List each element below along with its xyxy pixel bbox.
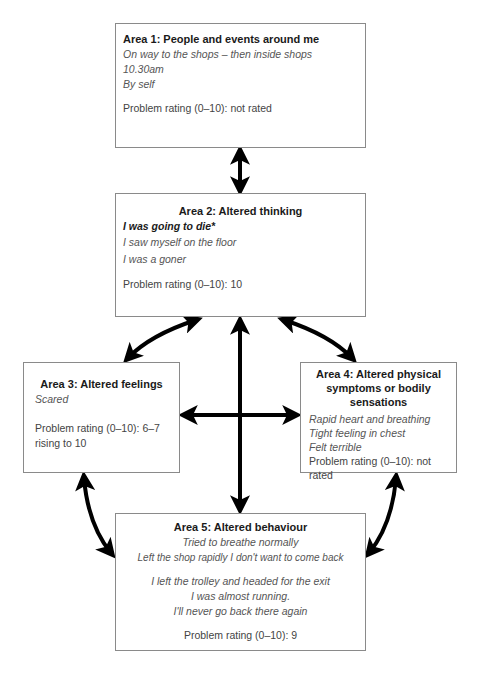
area5-line: I left the trolley and headed for the ex… bbox=[120, 574, 361, 589]
area4-line: Felt terrible bbox=[309, 440, 448, 454]
area4-box: Area 4: Altered physical symptoms or bod… bbox=[300, 362, 457, 473]
area3-line: Scared bbox=[35, 392, 168, 407]
area4-title-line: sensations bbox=[309, 395, 448, 409]
area4-line: Rapid heart and breathing bbox=[309, 412, 448, 426]
area3-rating-cont: rising to 10 bbox=[35, 436, 168, 451]
arrow-area4-area5 bbox=[369, 478, 396, 553]
area5-box: Area 5: Altered behaviour Tried to breat… bbox=[115, 513, 366, 651]
area4-line: Tight feeling in chest bbox=[309, 426, 448, 440]
area4-title: Area 4: Altered physical symptoms or bod… bbox=[309, 367, 448, 409]
area1-line: On way to the shops – then inside shops bbox=[123, 47, 358, 62]
area4-title-line: Area 4: Altered physical bbox=[309, 367, 448, 381]
arrow-area3-area5 bbox=[84, 478, 111, 553]
arrow-area2-area3 bbox=[128, 320, 196, 358]
area2-box: Area 2: Altered thinking I was going to … bbox=[115, 193, 366, 317]
area4-rating: Problem rating (0–10): not rated bbox=[309, 454, 448, 482]
area2-line: I was a goner bbox=[123, 252, 358, 267]
area1-line: By self bbox=[123, 77, 358, 92]
arrow-area2-area4 bbox=[284, 320, 352, 358]
area5-title: Area 5: Altered behaviour bbox=[120, 520, 361, 535]
area3-rating: Problem rating (0–10): 6–7 bbox=[35, 421, 168, 436]
area2-rating: Problem rating (0–10): 10 bbox=[123, 277, 358, 292]
area1-rating: Problem rating (0–10): not rated bbox=[123, 101, 358, 116]
area5-line: I was almost running. bbox=[120, 589, 361, 604]
area3-title: Area 3: Altered feelings bbox=[35, 377, 168, 392]
area5-line: Left the shop rapidly I don't want to co… bbox=[120, 550, 361, 565]
area2-title: Area 2: Altered thinking bbox=[123, 204, 358, 219]
area5-rating: Problem rating (0–10): 9 bbox=[120, 628, 361, 643]
area2-key-thought: I was going to die* bbox=[123, 219, 358, 234]
area5-line: Tried to breathe normally bbox=[120, 535, 361, 550]
area4-title-line: symptoms or bodily bbox=[309, 381, 448, 395]
area1-line: 10.30am bbox=[123, 62, 358, 77]
area2-line: I saw myself on the floor bbox=[123, 235, 358, 250]
area5-line: I'll never go back there again bbox=[120, 604, 361, 619]
area3-box: Area 3: Altered feelings Scared Problem … bbox=[23, 362, 180, 473]
area1-title: Area 1: People and events around me bbox=[123, 32, 358, 47]
area1-box: Area 1: People and events around me On w… bbox=[115, 23, 366, 148]
